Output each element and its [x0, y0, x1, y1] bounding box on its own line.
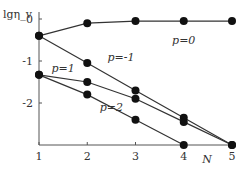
x-tick-label: 4 — [180, 150, 187, 163]
series-label: p=2 — [100, 101, 123, 114]
series-label: p=-1 — [108, 51, 135, 64]
series-line — [39, 75, 232, 145]
data-point — [83, 91, 91, 99]
x-axis-label: N — [201, 153, 212, 166]
series-label: p=1 — [51, 62, 74, 75]
y-tick-label: -2 — [22, 97, 33, 110]
x-tick-label: 5 — [229, 150, 236, 163]
data-point — [180, 17, 188, 25]
y-axis-label: lgη_v — [3, 8, 33, 21]
data-point — [180, 141, 188, 149]
labels-group: p=0p=-1p=1p=2 — [51, 34, 195, 114]
data-point — [35, 71, 43, 79]
data-point — [83, 78, 91, 86]
data-point — [35, 32, 43, 40]
data-point — [132, 17, 140, 25]
series-group — [35, 17, 236, 149]
axes: 0-1-212345Nlgη_v — [3, 8, 236, 166]
data-point — [83, 59, 91, 67]
data-point — [180, 118, 188, 126]
data-point — [228, 17, 236, 25]
x-tick-label: 2 — [84, 150, 91, 163]
line-chart: 0-1-212345Nlgη_v p=0p=-1p=1p=2 — [0, 0, 246, 170]
x-tick-label: 1 — [36, 150, 43, 163]
data-point — [228, 141, 236, 149]
data-point — [132, 86, 140, 94]
series-label: p=0 — [172, 34, 195, 47]
x-tick-label: 3 — [132, 150, 139, 163]
y-tick-label: -1 — [22, 55, 33, 68]
data-point — [132, 116, 140, 124]
data-point — [132, 95, 140, 103]
data-point — [83, 19, 91, 27]
